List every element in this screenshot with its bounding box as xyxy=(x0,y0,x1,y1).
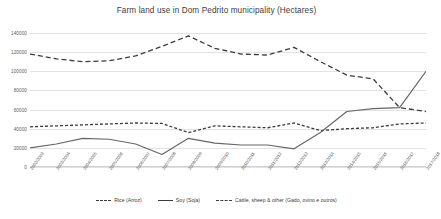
y-axis-tick-label: 20000 xyxy=(14,145,27,150)
y-axis-tick-label: 0 xyxy=(24,165,27,170)
x-axis-tick-label: 2017/2018 xyxy=(425,151,441,171)
y-axis-tick-label: 40000 xyxy=(14,126,27,131)
legend-label-soy: Soy (Soja) xyxy=(176,197,200,203)
y-axis-tick-label: 60000 xyxy=(14,107,27,112)
legend-line-icon-soy xyxy=(158,200,173,201)
y-axis-tick-label: 80000 xyxy=(14,88,27,93)
series-line-2 xyxy=(30,36,426,112)
series-layer xyxy=(30,33,426,167)
chart-legend: Rice (Arroz) Soy (Soja) Cattle, sheep & … xyxy=(0,197,433,203)
y-axis-tick-label: 100000 xyxy=(11,69,27,74)
series-line-0 xyxy=(30,123,426,133)
legend-item-cattle: Cattle, sheep & other (Gado, ovino e out… xyxy=(216,197,337,203)
legend-label-cattle: Cattle, sheep & other (Gado, ovino e out… xyxy=(235,197,337,203)
y-axis-tick-label: 140000 xyxy=(11,31,27,36)
chart-title: Farm land use in Dom Pedrito municipalit… xyxy=(0,6,433,15)
y-axis-tick-labels: 020000400006000080000100000120000140000 xyxy=(0,33,30,167)
legend-line-icon-rice xyxy=(96,200,111,201)
legend-label-rice: Rice (Arroz) xyxy=(114,197,142,203)
legend-item-rice: Rice (Arroz) xyxy=(96,197,142,203)
plot-area xyxy=(30,33,426,167)
legend-item-soy: Soy (Soja) xyxy=(158,197,200,203)
series-line-1 xyxy=(30,71,426,154)
y-axis-tick-label: 120000 xyxy=(11,50,27,55)
legend-line-icon-cattle xyxy=(216,200,232,201)
x-axis-tick-labels: 2002/20032003/20042004/20052005/20062006… xyxy=(30,168,426,194)
